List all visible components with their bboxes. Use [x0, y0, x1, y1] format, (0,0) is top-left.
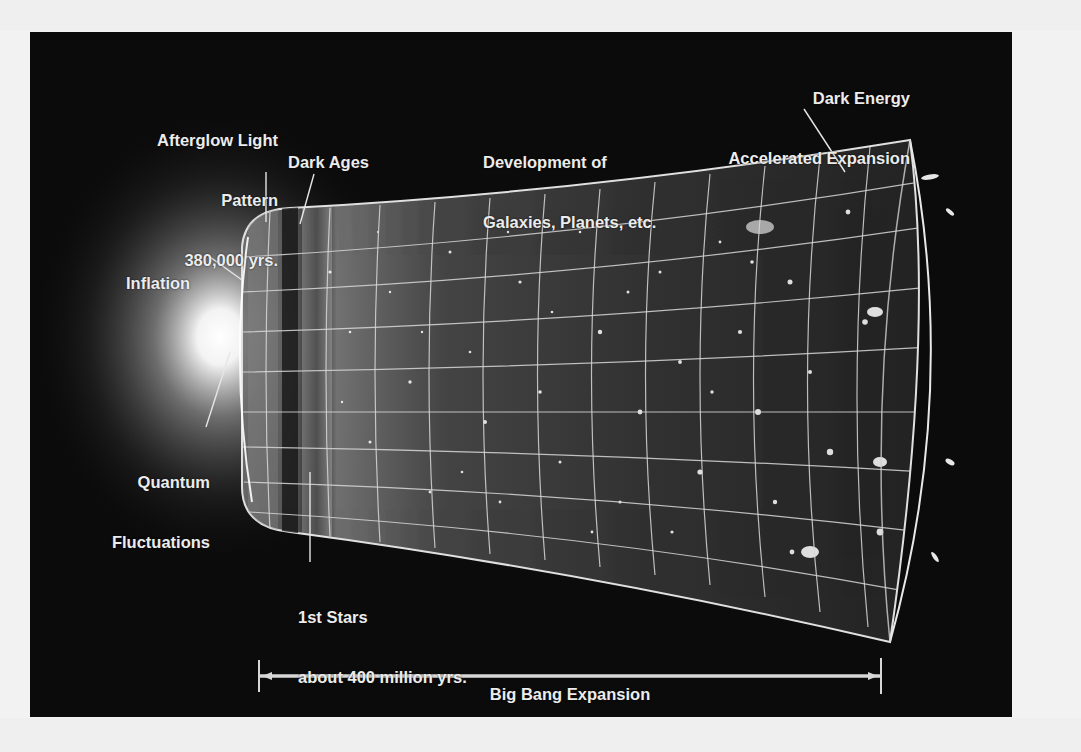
page-margin-bottom — [0, 718, 1081, 752]
quantum-fluctuations-label: Quantum Fluctuations — [80, 432, 210, 592]
development-of-galaxies-label: Development of Galaxies, Planets, etc. — [483, 112, 656, 272]
big-bang-diagram: Afterglow Light Pattern 380,000 yrs. Dar… — [30, 32, 1012, 717]
dark-energy-label: Dark Energy Accelerated Expansion — [650, 48, 910, 208]
duration-label: 13.7 billion years — [260, 687, 880, 717]
dark-ages-label: Dark Ages — [288, 112, 369, 212]
inflation-label: Inflation — [126, 233, 190, 333]
page-margin-top — [0, 0, 1081, 30]
